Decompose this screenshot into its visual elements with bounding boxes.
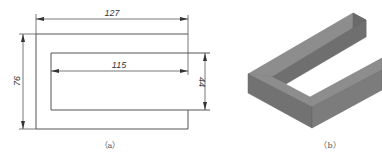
figure-b: （b） (248, 13, 382, 150)
dimension-label-115: 115 (112, 60, 127, 70)
dimension-115: 115 (51, 60, 188, 73)
inner-outline (51, 53, 210, 110)
dimension-44: 44 (197, 53, 207, 110)
figure-a: 127 115 76 44 （a） (12, 8, 210, 150)
outer-outline (36, 34, 188, 129)
dimension-label-127: 127 (104, 8, 120, 18)
dimension-127: 127 (36, 8, 188, 21)
dimension-label-76: 76 (12, 76, 22, 86)
drawing-canvas: 127 115 76 44 （a） (0, 0, 382, 156)
caption-a: （a） (100, 141, 121, 150)
dimension-76: 76 (12, 34, 25, 129)
caption-b: （b） (319, 141, 340, 150)
dimension-label-44: 44 (197, 77, 207, 87)
